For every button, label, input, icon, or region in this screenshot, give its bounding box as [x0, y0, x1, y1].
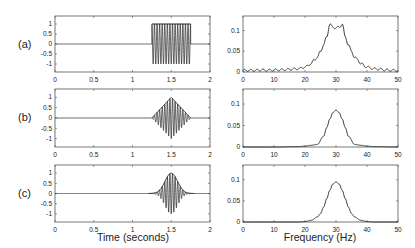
y-tick-label: 0.05 [227, 122, 240, 129]
row-label-b: (b) [18, 111, 31, 123]
x-tick-label: 2 [208, 76, 212, 83]
x-tick-label: 0 [53, 151, 57, 158]
x-tick-label: 40 [363, 151, 371, 158]
y-tick-label: -1 [46, 210, 52, 217]
x-tick-label: 1.5 [167, 76, 176, 83]
y-tick-label: 0 [236, 218, 240, 225]
plot-b-time: 00.511.52-1-0.500.51 [41, 89, 212, 158]
plot-c-time: 00.511.52-1-0.500.51 [41, 165, 212, 233]
plot-a-freq: 0102030405000.050.1 [227, 16, 402, 83]
x-tick-label: 50 [394, 226, 402, 233]
y-tick-label: 0.1 [231, 100, 240, 107]
plot-b-freq: 0102030405000.050.1 [227, 89, 402, 158]
x-tick-label: 30 [332, 151, 340, 158]
y-tick-label: 0.5 [43, 180, 52, 187]
x-tick-label: 2 [208, 151, 212, 158]
plot-a-time: 00.511.52-1-0.500.51 [41, 16, 212, 83]
row-label-a: (a) [18, 38, 31, 50]
x-tick-label: 10 [270, 151, 278, 158]
y-tick-label: 0 [48, 114, 52, 121]
x-tick-label: 10 [270, 76, 278, 83]
y-tick-label: 0.1 [231, 27, 240, 34]
plot-c-freq: 0102030405000.050.1 [227, 165, 402, 233]
y-tick-label: -0.5 [41, 125, 53, 132]
x-tick-label: 1 [131, 151, 135, 158]
x-tick-label: 40 [363, 226, 371, 233]
x-tick-label: 2 [208, 226, 212, 233]
y-tick-label: 0 [236, 68, 240, 75]
x-tick-label: 0 [241, 226, 245, 233]
x-tick-label: 0 [53, 76, 57, 83]
y-tick-label: 0.5 [43, 30, 52, 37]
y-tick-label: 1 [48, 169, 52, 176]
x-tick-label: 0 [241, 151, 245, 158]
y-tick-label: 0 [48, 190, 52, 197]
x-tick-label: 10 [270, 226, 278, 233]
y-tick-label: 0.05 [227, 197, 240, 204]
x-tick-label: 50 [394, 76, 402, 83]
row-label-c: (c) [18, 187, 31, 199]
time-axis-label: Time (seconds) [97, 231, 169, 243]
x-tick-label: 0.5 [89, 76, 98, 83]
y-tick-label: 1 [48, 20, 52, 27]
x-tick-label: 50 [394, 151, 402, 158]
y-tick-label: 0.5 [43, 104, 52, 111]
x-tick-label: 20 [301, 151, 309, 158]
y-tick-label: -1 [46, 135, 52, 142]
y-tick-label: -1 [46, 60, 52, 67]
figure: (a) (b) (c) 00.511.52-1-0.500.5101020304… [0, 0, 415, 248]
y-tick-label: 0 [236, 143, 240, 150]
x-tick-label: 40 [363, 76, 371, 83]
x-tick-label: 0 [53, 226, 57, 233]
x-tick-label: 1 [131, 76, 135, 83]
frequency-axis-label: Frequency (Hz) [284, 231, 356, 243]
y-tick-label: -0.5 [41, 50, 53, 57]
y-tick-label: 0 [48, 40, 52, 47]
x-tick-label: 0 [241, 76, 245, 83]
x-tick-label: 30 [332, 76, 340, 83]
x-tick-label: 20 [301, 76, 309, 83]
x-tick-label: 0.5 [89, 151, 98, 158]
plot-frame [243, 89, 398, 147]
y-tick-label: -0.5 [41, 200, 53, 207]
y-tick-label: 0.05 [227, 47, 240, 54]
plot-frame [243, 16, 398, 72]
y-tick-label: 0.1 [231, 176, 240, 183]
y-tick-label: 1 [48, 93, 52, 100]
x-tick-label: 1.5 [167, 151, 176, 158]
